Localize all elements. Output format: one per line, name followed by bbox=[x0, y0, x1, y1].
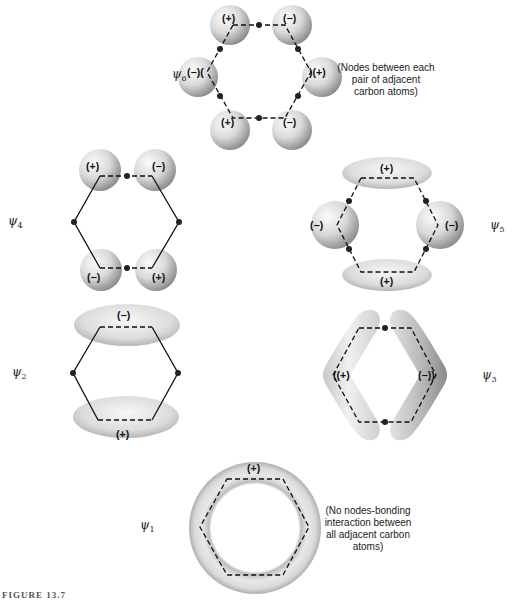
svg-text:(−)(: (−)( bbox=[187, 66, 204, 78]
svg-text:(+): (+) bbox=[222, 12, 235, 24]
lobe bbox=[323, 310, 380, 441]
svg-text:(−)): (−)) bbox=[418, 369, 435, 381]
svg-text:(−): (−) bbox=[87, 271, 100, 283]
orbital-psi6: (+) (−) (−)( )(+) (+) (−) bbox=[178, 5, 342, 150]
svg-text:((+): ((+) bbox=[333, 369, 350, 381]
svg-text:(−): (−) bbox=[283, 116, 296, 128]
label-psi6: ψ6 bbox=[172, 67, 187, 83]
orbital-psi1: (+) bbox=[189, 462, 321, 594]
svg-text:(+): (+) bbox=[380, 275, 393, 287]
label-psi3: ψ3 bbox=[482, 368, 497, 384]
svg-text:(+): (+) bbox=[152, 271, 165, 283]
torus-lobe bbox=[189, 462, 321, 594]
label-psi4: ψ4 bbox=[8, 214, 23, 230]
svg-text:(−): (−) bbox=[283, 12, 296, 24]
label-psi5: ψ5 bbox=[490, 218, 505, 234]
svg-text:(+): (+) bbox=[116, 428, 129, 440]
svg-text:(+): (+) bbox=[247, 462, 260, 474]
label-psi2: ψ2 bbox=[12, 365, 27, 381]
node-dots bbox=[382, 325, 388, 425]
svg-text:(−): (−) bbox=[117, 309, 130, 321]
lobe bbox=[80, 249, 122, 291]
svg-text:(−): (−) bbox=[445, 219, 458, 231]
note-psi1: (No nodes-bonding interaction between al… bbox=[318, 505, 418, 553]
svg-text:(+): (+) bbox=[380, 162, 393, 174]
svg-text:(−): (−) bbox=[310, 219, 323, 231]
svg-text:(+): (+) bbox=[86, 160, 99, 172]
orbital-psi5: (+) (−) (−) (+) bbox=[310, 157, 464, 291]
note-psi6: (Nodes between each pair of adjacent car… bbox=[332, 62, 440, 98]
node-dots bbox=[70, 370, 181, 376]
orbital-psi4: (+) (−) (−) (+) bbox=[71, 149, 182, 291]
lobe bbox=[135, 249, 177, 291]
svg-text:(+): (+) bbox=[221, 116, 234, 128]
orbital-psi3: ((+) (−)) bbox=[323, 310, 447, 441]
figure-caption: FIGURE 13.7 bbox=[2, 590, 66, 600]
label-psi1: ψ1 bbox=[140, 518, 155, 534]
svg-text:(−): (−) bbox=[152, 160, 165, 172]
svg-text:)(+): )(+) bbox=[309, 66, 326, 78]
orbital-psi2: (−) (+) bbox=[70, 304, 181, 440]
